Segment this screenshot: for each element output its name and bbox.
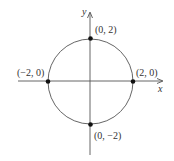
point-label-left: (−2, 0): [17, 67, 44, 79]
circle-diagram: x y (0, 2) (2, 0) (0, −2) (−2, 0): [0, 0, 174, 161]
point-dot: [46, 79, 51, 84]
point-dot: [131, 79, 136, 84]
point-label-bottom: (0, −2): [94, 130, 121, 142]
point-top: (0, 2): [88, 24, 116, 41]
y-axis-label: y: [81, 6, 87, 17]
point-bottom: (0, −2): [88, 122, 121, 142]
point-dot: [88, 122, 93, 127]
x-axis-label: x: [157, 83, 163, 94]
x-axis: x: [18, 79, 163, 95]
point-label-right: (2, 0): [136, 67, 158, 79]
circle: [48, 39, 133, 124]
y-axis: y: [81, 6, 93, 155]
point-label-top: (0, 2): [95, 24, 117, 36]
point-dot: [88, 36, 93, 41]
